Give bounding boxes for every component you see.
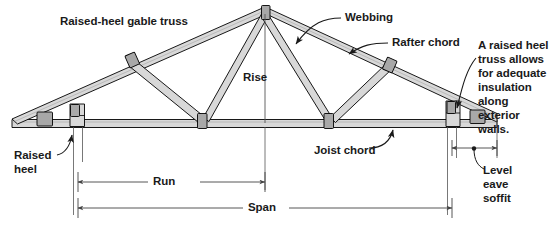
figure-title: Raised-heel gable truss [60,15,188,29]
raised-heel-label: Raised heel [14,148,51,176]
truss-diagram-figure: Raised-heel gable truss Webbing Rafter c… [0,0,553,252]
rafter-chord-label: Rafter chord [392,36,460,50]
span-dimension-label: Span [248,201,276,215]
truss-drawing [0,0,553,252]
webbing-label: Webbing [345,11,393,25]
joist-chord-label: Joist chord [314,144,375,158]
rise-label: Rise [243,71,267,85]
run-dimension-label: Run [153,175,175,189]
raised-heel-note: A raised heel truss allows for adequate … [478,38,553,136]
level-eave-soffit-label: Level eave soffit [483,163,512,205]
webbing-members [129,14,393,123]
